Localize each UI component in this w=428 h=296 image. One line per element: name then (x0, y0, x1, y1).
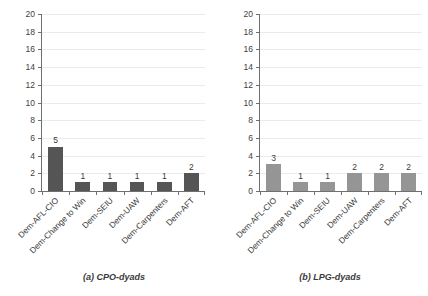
y-axis-tick-label: 16 (26, 45, 35, 54)
chart-panel-a: 02468101214161820 511112 Dem-AFL-CIODem-… (0, 0, 214, 296)
y-axis-tick-label: 4 (248, 151, 253, 160)
x-axis-labels-b: Dem-AFL-CIODem-Change to WinDem-SEIUDem-… (259, 192, 422, 262)
y-axis-tick-label: 12 (26, 81, 35, 90)
bar-slot: 2 (368, 14, 395, 191)
y-axis-tick-label: 10 (244, 98, 253, 107)
plot-area-b: 02468101214161820 311222 (259, 14, 422, 192)
bar-slot: 1 (96, 14, 123, 191)
y-axis-tick-label: 18 (244, 27, 253, 36)
y-axis-tick-label: 20 (244, 10, 253, 19)
y-axis-tick-label: 2 (30, 169, 35, 178)
bar-slot: 1 (314, 14, 341, 191)
bar-slot: 1 (69, 14, 96, 191)
bar (401, 173, 416, 191)
bar (48, 147, 63, 191)
x-axis-label-slot: Dem-AFT (395, 192, 422, 262)
y-axis-tick-label: 4 (30, 151, 35, 160)
x-axis-label-slot: Dem-SEIU (96, 192, 123, 262)
bar-slot: 3 (260, 14, 287, 191)
bar-slot: 1 (287, 14, 314, 191)
bar-group-a: 511112 (42, 14, 205, 191)
y-axis-tick-label: 2 (248, 169, 253, 178)
bar-value-label: 1 (80, 172, 85, 181)
x-axis-label-slot: Dem-Carpenters (368, 192, 395, 262)
x-axis-label-slot: Dem-SEIU (313, 192, 340, 262)
y-axis-tick-label: 8 (248, 116, 253, 125)
y-axis-tick-label: 20 (26, 10, 35, 19)
bar-value-label: 1 (135, 172, 140, 181)
y-axis-tick-label: 12 (244, 81, 253, 90)
panel-caption-a: (a) CPO-dyads (0, 272, 214, 282)
bar-value-label: 5 (53, 136, 58, 145)
bar-slot: 5 (42, 14, 69, 191)
y-axis-tick-label: 14 (26, 63, 35, 72)
bar (320, 182, 335, 191)
bar-slot: 2 (341, 14, 368, 191)
y-axis-tick-label: 18 (26, 27, 35, 36)
panel-caption-b: (b) LPG-dyads (214, 272, 428, 282)
bar (157, 182, 172, 191)
y-axis-tick-label: 0 (248, 187, 253, 196)
y-axis-tick-label: 14 (244, 63, 253, 72)
bar-value-label: 2 (352, 163, 357, 172)
bar (347, 173, 362, 191)
bar-value-label: 2 (406, 163, 411, 172)
bar-value-label: 3 (271, 154, 276, 163)
bar-value-label: 1 (162, 172, 167, 181)
bar-slot: 1 (151, 14, 178, 191)
y-axis-tick-label: 16 (244, 45, 253, 54)
bar (266, 164, 281, 191)
y-axis-tick-label: 0 (30, 187, 35, 196)
bar-value-label: 2 (379, 163, 384, 172)
bar-value-label: 2 (189, 163, 194, 172)
bar-slot: 2 (395, 14, 422, 191)
chart-panel-b: 02468101214161820 311222 Dem-AFL-CIODem-… (214, 0, 428, 296)
x-axis-labels-a: Dem-AFL-CIODem-Change to WinDem-SEIUDem-… (41, 192, 205, 262)
y-axis-tick-label: 10 (26, 98, 35, 107)
bar (75, 182, 90, 191)
bar (374, 173, 389, 191)
x-axis-label-slot: Dem-AFT (178, 192, 205, 262)
bar-group-b: 311222 (260, 14, 422, 191)
bar (184, 173, 199, 191)
bar (130, 182, 145, 191)
y-axis-tick-label: 6 (248, 134, 253, 143)
y-axis-tick-label: 8 (30, 116, 35, 125)
bar-slot: 1 (124, 14, 151, 191)
plot-area-a: 02468101214161820 511112 (41, 14, 205, 192)
y-axis-tick-label: 6 (30, 134, 35, 143)
x-axis-label-slot: Dem-Change to Win (68, 192, 95, 262)
figure-two-panel-bar-charts: 02468101214161820 511112 Dem-AFL-CIODem-… (0, 0, 428, 296)
bar-value-label: 1 (325, 172, 330, 181)
bar-value-label: 1 (298, 172, 303, 181)
bar (293, 182, 308, 191)
x-axis-label-slot: Dem-Carpenters (150, 192, 177, 262)
bar-slot: 2 (178, 14, 205, 191)
bar (103, 182, 118, 191)
bar-value-label: 1 (108, 172, 113, 181)
